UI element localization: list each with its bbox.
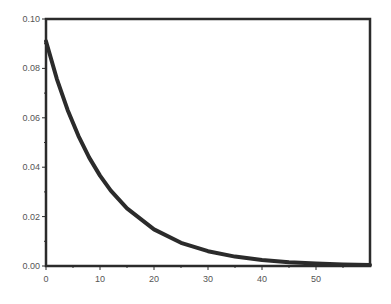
x-tick-label: 40 (257, 274, 267, 284)
decay-curve (46, 41, 370, 265)
x-tick-label: 0 (43, 274, 48, 284)
plot-border (46, 19, 370, 266)
y-tick-label: 0.08 (22, 63, 40, 73)
y-tick-label: 0.10 (22, 14, 40, 24)
x-axis: 01020304050 (43, 266, 343, 284)
plot-frame (46, 19, 370, 266)
x-tick-label: 10 (95, 274, 105, 284)
line-chart: 0.000.020.040.060.080.10 01020304050 (0, 0, 391, 304)
y-axis: 0.000.020.040.060.080.10 (22, 14, 46, 271)
y-tick-label: 0.02 (22, 212, 40, 222)
y-tick-label: 0.04 (22, 162, 40, 172)
x-tick-label: 20 (149, 274, 159, 284)
y-tick-label: 0.06 (22, 113, 40, 123)
x-tick-label: 30 (203, 274, 213, 284)
x-tick-label: 50 (311, 274, 321, 284)
y-tick-label: 0.00 (22, 261, 40, 271)
